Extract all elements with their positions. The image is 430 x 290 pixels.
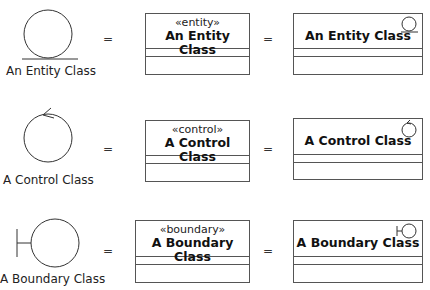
operations-compartment: [136, 265, 249, 272]
boundary-mini-icon: [396, 223, 418, 241]
equals-sign: =: [103, 244, 113, 258]
operations-compartment: [294, 265, 422, 272]
stereotype-label: «boundary»: [136, 221, 249, 236]
boundary-icon: [16, 218, 82, 274]
class-name-compartment: «boundary» A Boundary Class: [136, 221, 249, 257]
attributes-compartment: [294, 257, 422, 265]
boundary-icon-label: A Boundary Class: [0, 272, 98, 286]
class-name-compartment: «control» A Control Class: [146, 121, 249, 156]
control-icon: [22, 110, 78, 166]
class-name: An Entity Class: [146, 29, 249, 57]
boundary-class-box[interactable]: «boundary» A Boundary Class: [135, 220, 250, 283]
class-name: A Boundary Class: [136, 236, 249, 264]
equals-sign: =: [263, 244, 273, 258]
stereotype-label: «entity»: [146, 14, 249, 29]
entity-iconic-class-box[interactable]: An Entity Class: [293, 13, 423, 75]
class-name-compartment: A Boundary Class: [294, 221, 422, 257]
control-iconic-class-box[interactable]: A Control Class: [293, 118, 423, 180]
boundary-iconic-class-box[interactable]: A Boundary Class: [293, 220, 423, 283]
class-name-compartment: An Entity Class: [294, 14, 422, 49]
entity-class-box[interactable]: «entity» An Entity Class: [145, 13, 250, 75]
entity-icon: [22, 8, 82, 64]
class-name: A Control Class: [146, 136, 249, 164]
equals-sign: =: [263, 32, 273, 46]
operations-compartment: [294, 57, 422, 64]
entity-mini-icon: [399, 15, 419, 35]
operations-compartment: [146, 164, 249, 171]
class-name-compartment: «entity» An Entity Class: [146, 14, 249, 49]
equals-sign: =: [103, 142, 113, 156]
stereotype-label: «control»: [146, 121, 249, 136]
operations-compartment: [294, 163, 422, 170]
equals-sign: =: [263, 142, 273, 156]
operations-compartment: [146, 57, 249, 64]
attributes-compartment: [294, 155, 422, 163]
control-icon-label: A Control Class: [3, 173, 93, 187]
control-mini-icon: [400, 121, 418, 139]
entity-icon-label: An Entity Class: [6, 64, 94, 78]
attributes-compartment: [294, 49, 422, 57]
equals-sign: =: [103, 32, 113, 46]
class-name-compartment: A Control Class: [294, 119, 422, 155]
control-class-box[interactable]: «control» A Control Class: [145, 120, 250, 182]
